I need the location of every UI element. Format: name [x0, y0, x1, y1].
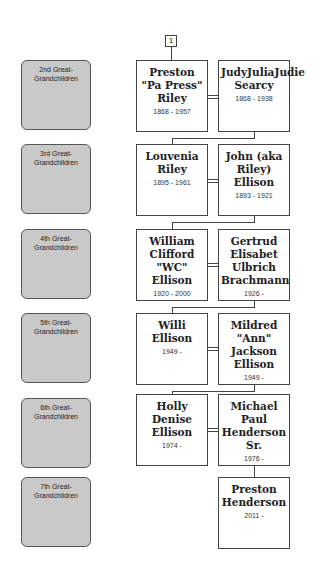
- person-dates: 1868 - 1957: [137, 108, 207, 115]
- person-name: John (aka Riley) Ellison: [219, 150, 289, 189]
- marriage-connector: [208, 263, 218, 267]
- person-name: William Clifford "WC" Ellison: [137, 235, 207, 287]
- person-card[interactable]: Gertrud Elisabet Ulbrich Brachmann 1926 …: [218, 229, 290, 301]
- tree-number-box: 1: [165, 35, 177, 47]
- person-card[interactable]: John (aka Riley) Ellison 1893 - 1921: [218, 144, 290, 216]
- person-name: Holly Denise Ellison: [137, 400, 207, 439]
- person-card[interactable]: Preston Henderson 2011 -: [218, 477, 290, 549]
- connector-line: [172, 222, 255, 223]
- marriage-connector: [208, 95, 218, 99]
- generation-label-3rd: 3rd Great-Grandchildren: [21, 144, 91, 214]
- connector-line: [171, 47, 172, 60]
- marriage-connector: [208, 179, 218, 183]
- generation-label-2nd: 2nd Great-Grandchildren: [21, 60, 91, 130]
- person-name: Louvenia Riley: [137, 150, 207, 176]
- person-name: Preston "Pa Press" Riley: [137, 66, 207, 105]
- person-card[interactable]: Holly Denise Ellison 1974 -: [136, 394, 208, 466]
- person-dates: 1949 -: [137, 348, 207, 355]
- person-dates: 1926 -: [219, 290, 289, 297]
- person-card[interactable]: Louvenia Riley 1895 - 1961: [136, 144, 208, 216]
- person-dates: 1868 - 1938: [219, 95, 289, 102]
- marriage-connector: [208, 347, 218, 351]
- person-card[interactable]: Willi Ellison 1949 -: [136, 313, 208, 385]
- person-dates: 1895 - 1961: [137, 179, 207, 186]
- person-name: JudyJuliaJudie Searcy: [219, 66, 289, 92]
- person-name: Michael Paul Henderson Sr.: [219, 400, 289, 452]
- generation-label-4th: 4th Great-Grandchildren: [21, 229, 91, 299]
- person-name: Willi Ellison: [137, 319, 207, 345]
- generation-label-7th: 7th Great-Grandchildren: [21, 477, 91, 547]
- person-card[interactable]: William Clifford "WC" Ellison 1920 - 200…: [136, 229, 208, 301]
- person-dates: 1920 - 2000: [137, 290, 207, 297]
- person-card[interactable]: Mildred "Ann" Jackson Ellison 1949 -: [218, 313, 290, 385]
- person-dates: 1974 -: [137, 442, 207, 449]
- connector-line: [172, 222, 173, 229]
- person-dates: 1893 - 1921: [219, 192, 289, 199]
- person-dates: 1976 -: [219, 455, 289, 462]
- person-dates: 1949 -: [219, 374, 289, 381]
- person-name: Mildred "Ann" Jackson Ellison: [219, 319, 289, 371]
- connector-line: [172, 391, 255, 392]
- person-name: Preston Henderson: [219, 483, 289, 509]
- person-dates: 2011 -: [219, 512, 289, 519]
- person-card[interactable]: Preston "Pa Press" Riley 1868 - 1957: [136, 60, 208, 132]
- generation-label-6th: 6th Great-Grandchildren: [21, 398, 91, 468]
- generation-label-5th: 5th Great-Grandchildren: [21, 313, 91, 383]
- connector-line: [172, 138, 255, 139]
- person-card[interactable]: Michael Paul Henderson Sr. 1976 -: [218, 394, 290, 466]
- person-name: Gertrud Elisabet Ulbrich Brachmann: [219, 235, 289, 287]
- connector-line: [172, 307, 255, 308]
- person-card[interactable]: JudyJuliaJudie Searcy 1868 - 1938: [218, 60, 290, 132]
- marriage-connector: [208, 428, 218, 432]
- connector-line: [254, 466, 255, 477]
